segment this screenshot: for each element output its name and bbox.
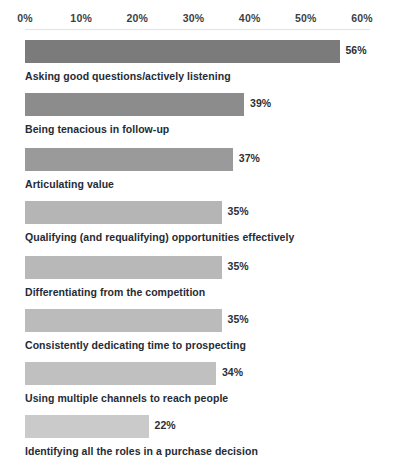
x-axis-tick: 60% <box>351 12 373 24</box>
bar[interactable] <box>25 309 222 332</box>
x-axis-tick: 40% <box>239 12 261 24</box>
bar-row: 35% Qualifying (and requalifying) opport… <box>0 201 394 224</box>
bar-value-label: 34% <box>222 366 243 378</box>
category-label: Identifying all the roles in a purchase … <box>25 445 325 458</box>
bar-row: 35% Consistently dedicating time to pros… <box>0 309 394 332</box>
bar-row: 34% Using multiple channels to reach peo… <box>0 362 394 385</box>
bar-track: 37% <box>0 148 394 171</box>
category-label: Articulating value <box>25 178 325 191</box>
bar-track: 35% <box>0 309 394 332</box>
bar[interactable] <box>25 148 233 171</box>
bar-row: 39% Being tenacious in follow-up <box>0 93 394 116</box>
bar-row: 56% Asking good questions/actively liste… <box>0 40 394 63</box>
x-axis: 0% 10% 20% 30% 40% 50% 60% <box>0 0 394 30</box>
bar[interactable] <box>25 93 244 116</box>
category-label: Consistently dedicating time to prospect… <box>25 339 325 352</box>
x-axis-tick: 50% <box>295 12 317 24</box>
x-axis-tick: 20% <box>127 12 149 24</box>
category-label: Asking good questions/actively listening <box>25 70 325 83</box>
bar[interactable] <box>25 40 340 63</box>
bar-value-label: 37% <box>239 152 260 164</box>
bar[interactable] <box>25 362 216 385</box>
bar[interactable] <box>25 201 222 224</box>
x-axis-tick: 10% <box>70 12 92 24</box>
bar-value-label: 35% <box>228 205 249 217</box>
bar-value-label: 22% <box>155 419 176 431</box>
bar-track: 56% <box>0 40 394 63</box>
bar-track: 34% <box>0 362 394 385</box>
bar-track: 22% <box>0 415 394 438</box>
bar-track: 39% <box>0 93 394 116</box>
category-label: Using multiple channels to reach people <box>25 392 325 405</box>
bar-row: 35% Differentiating from the competition <box>0 256 394 279</box>
x-axis-tick: 0% <box>17 12 33 24</box>
bar-chart: 0% 10% 20% 30% 40% 50% 60% 56% Asking go… <box>0 0 394 474</box>
category-label: Qualifying (and requalifying) opportunit… <box>25 231 325 244</box>
bar-track: 35% <box>0 256 394 279</box>
bar-value-label: 56% <box>346 44 367 56</box>
bar-track: 35% <box>0 201 394 224</box>
bar-row: 22% Identifying all the roles in a purch… <box>0 415 394 438</box>
bar[interactable] <box>25 415 149 438</box>
bar-value-label: 39% <box>250 97 271 109</box>
bar-value-label: 35% <box>228 260 249 272</box>
plot-area: 56% Asking good questions/actively liste… <box>0 30 394 474</box>
x-axis-tick: 30% <box>183 12 205 24</box>
bar[interactable] <box>25 256 222 279</box>
category-label: Being tenacious in follow-up <box>25 123 325 136</box>
bar-row: 37% Articulating value <box>0 148 394 171</box>
category-label: Differentiating from the competition <box>25 286 325 299</box>
bar-value-label: 35% <box>228 313 249 325</box>
